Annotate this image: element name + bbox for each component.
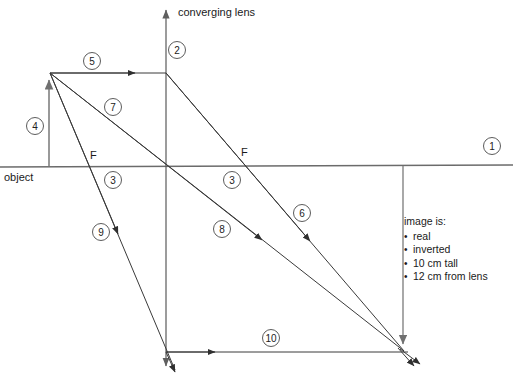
step-badge-label: 8: [219, 224, 225, 235]
step-badge-label: 10: [265, 333, 277, 344]
focal-point-right-label: F: [241, 146, 248, 158]
step-badge-5: 5: [84, 53, 101, 70]
principal-axis-line: [0, 165, 513, 167]
step-badge-label: 2: [174, 45, 180, 56]
step-badge-3b: 3: [224, 172, 241, 189]
step-badge-2: 2: [169, 42, 186, 59]
image-property-item: real: [404, 230, 510, 244]
step-badge-9: 9: [93, 224, 110, 241]
step-badge-label: 3: [110, 175, 116, 186]
image-properties-heading: image is:: [404, 215, 510, 229]
step-badge-label: 7: [110, 102, 116, 113]
converging-lens-label: converging lens: [178, 6, 256, 18]
ray-through-left-focus-tail: [166, 352, 175, 372]
ray-converge-tail-b: [398, 348, 414, 366]
image-properties-note: image is: real inverted 10 cm tall 12 cm…: [404, 215, 510, 284]
step-badge-10: 10: [263, 330, 280, 347]
image-property-item: 10 cm tall: [404, 257, 510, 271]
step-badge-8: 8: [214, 221, 231, 238]
step-badge-label: 4: [32, 121, 38, 132]
focal-point-left-label: F: [90, 149, 97, 161]
step-badge-3a: 3: [105, 172, 122, 189]
ray-diagram-canvas: F F object converging lens 1 2 3 3 4: [0, 0, 515, 380]
step-badge-label: 6: [299, 208, 305, 219]
step-badge-label: 1: [489, 141, 495, 152]
image-property-item: 12 cm from lens: [404, 270, 510, 284]
ray-through-left-focus-arrow: [50, 73, 118, 234]
step-badge-6: 6: [294, 205, 311, 222]
ray-chief-arrow: [50, 73, 262, 240]
step-badge-4: 4: [27, 118, 44, 135]
image-properties-list: real inverted 10 cm tall 12 cm from lens: [404, 230, 510, 284]
step-badge-label: 9: [98, 227, 104, 238]
step-badge-label: 3: [229, 175, 235, 186]
step-badge-label: 5: [89, 56, 95, 67]
object-label: object: [4, 171, 33, 183]
step-badge-7: 7: [105, 99, 122, 116]
ray-diagram-svg: F F object converging lens 1 2 3 3 4: [0, 0, 515, 380]
ray-refracted-through-focus-arrow: [166, 73, 310, 241]
step-badge-1: 1: [484, 138, 501, 155]
image-property-item: inverted: [404, 243, 510, 257]
